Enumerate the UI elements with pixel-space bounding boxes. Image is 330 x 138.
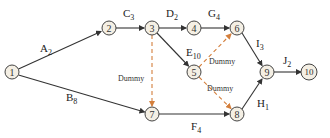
- node-7: 7: [145, 107, 159, 121]
- dummy-label-5-6: Dummy: [209, 57, 235, 66]
- svg-text:7: 7: [150, 109, 155, 120]
- label-G: G4: [208, 7, 220, 22]
- dummy-label-3-7: Dummy: [118, 74, 144, 83]
- label-H: H1: [257, 97, 269, 112]
- svg-text:5: 5: [192, 67, 197, 78]
- label-E: E10: [186, 46, 201, 61]
- label-D: D2: [166, 7, 178, 22]
- dummy-label-5-8: Dummy: [207, 84, 233, 93]
- svg-text:9: 9: [265, 67, 270, 78]
- node-1: 1: [5, 65, 19, 79]
- node-3: 3: [145, 21, 159, 35]
- node-5: 5: [187, 65, 201, 79]
- svg-text:10: 10: [305, 67, 315, 77]
- node-10: 10: [301, 64, 317, 80]
- label-B: B8: [66, 91, 77, 106]
- label-C: C3: [123, 7, 134, 22]
- label-A: A2: [40, 42, 52, 57]
- node-8: 8: [230, 107, 244, 121]
- edge-1-2: [19, 32, 102, 70]
- svg-text:8: 8: [235, 109, 240, 120]
- svg-text:1: 1: [10, 67, 15, 78]
- label-F: F4: [191, 120, 201, 135]
- network-diagram: A2 B8 C3 D2 G4 E10 I3 J2 H1 F4 Dummy Dum…: [0, 0, 330, 138]
- svg-text:3: 3: [150, 23, 155, 34]
- svg-text:2: 2: [107, 23, 112, 34]
- node-6: 6: [230, 21, 244, 35]
- node-4: 4: [187, 21, 201, 35]
- svg-text:4: 4: [192, 23, 197, 34]
- node-9: 9: [260, 65, 274, 79]
- label-J: J2: [283, 54, 291, 69]
- label-I: I3: [256, 37, 264, 52]
- node-2: 2: [102, 21, 116, 35]
- edge-3-5: [157, 33, 189, 66]
- svg-text:6: 6: [235, 23, 240, 34]
